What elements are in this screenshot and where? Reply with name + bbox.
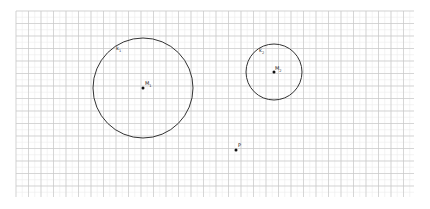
center-point-k1 [142, 87, 145, 90]
circle-label-k1: k1 [116, 45, 121, 53]
geometry-diagram: k1M1k2M2P [0, 0, 430, 209]
grid-paper [16, 11, 414, 197]
point-label-P: P [238, 142, 241, 148]
point-P [235, 149, 238, 152]
center-label-k1: M1 [145, 80, 152, 88]
